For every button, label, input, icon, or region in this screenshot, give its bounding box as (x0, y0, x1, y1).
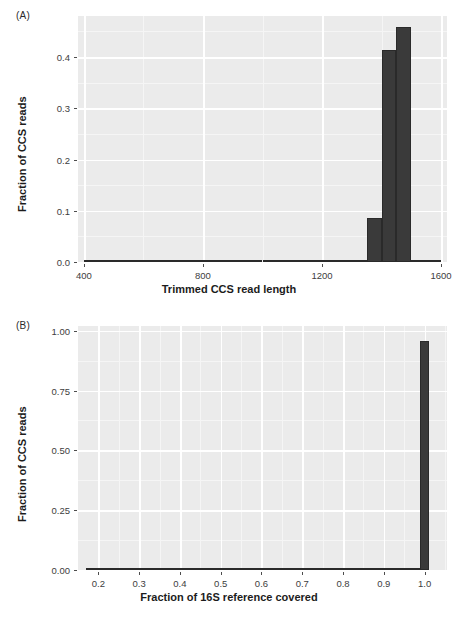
y-tick-mark (74, 331, 77, 332)
histogram-bar (200, 568, 208, 570)
y-tick-mark (74, 108, 77, 109)
gridline-vertical-minor (160, 326, 161, 570)
histogram-bar (396, 568, 404, 570)
histogram-bar (274, 568, 282, 570)
histogram-bar (135, 568, 143, 570)
x-tick-label: 1600 (430, 270, 451, 281)
y-tick-label: 0.00 (30, 565, 70, 576)
panel-a-y-axis-title: Fraction of CCS reads (16, 96, 28, 212)
gridline-vertical-minor (445, 326, 446, 570)
histogram-bar (352, 260, 367, 262)
histogram-bar (426, 260, 441, 262)
gridline-vertical-minor (282, 326, 283, 570)
histogram-bar (127, 568, 135, 570)
x-tick-mark (384, 572, 385, 575)
gridline-vertical-minor (241, 326, 242, 570)
panel-a-tag: (A) (16, 10, 30, 21)
y-tick-mark (74, 211, 77, 212)
histogram-bar (233, 568, 241, 570)
histogram-bar (176, 568, 184, 570)
x-tick-label: 0.2 (92, 578, 105, 589)
histogram-bar (143, 260, 158, 262)
histogram-bar (102, 568, 110, 570)
histogram-bar (412, 568, 420, 570)
histogram-bar (347, 568, 355, 570)
y-tick-label: 0.25 (30, 505, 70, 516)
histogram-bar (404, 568, 412, 570)
histogram-bar (411, 260, 426, 262)
histogram-bar (217, 568, 225, 570)
histogram-bar (248, 260, 263, 262)
histogram-bar (307, 260, 322, 262)
histogram-bar (396, 27, 411, 262)
histogram-bar (192, 568, 200, 570)
panel-b-x-axis-title: Fraction of 16S reference covered (0, 591, 458, 603)
histogram-bar (382, 50, 397, 262)
panel-b-tag: (B) (16, 320, 30, 331)
histogram-bar (355, 568, 363, 570)
histogram-bar (218, 260, 233, 262)
histogram-bar (188, 260, 203, 262)
histogram-bar (257, 568, 265, 570)
histogram-bar (225, 568, 233, 570)
x-tick-label: 0.9 (377, 578, 390, 589)
gridline-vertical-major (139, 326, 141, 570)
x-tick-label: 400 (76, 270, 92, 281)
histogram-bar (233, 260, 248, 262)
histogram-bar (84, 260, 99, 262)
histogram-bar (331, 568, 339, 570)
histogram-bar (99, 260, 114, 262)
histogram-bar (151, 568, 159, 570)
y-tick-label: 0.0 (30, 257, 70, 268)
x-tick-mark (139, 572, 140, 575)
x-tick-mark (221, 572, 222, 575)
x-tick-mark (180, 572, 181, 575)
x-tick-label: 800 (195, 270, 211, 281)
y-tick-mark (74, 262, 77, 263)
histogram-bar (158, 260, 173, 262)
x-tick-label: 0.8 (336, 578, 349, 589)
x-tick-mark (84, 264, 85, 267)
panel-b-plot-area (78, 326, 447, 570)
figure-two-panel-histograms: (A) 0.00.10.20.30.4 40080012001600 Trimm… (0, 0, 458, 617)
y-tick-mark (74, 570, 77, 571)
histogram-bar (241, 568, 249, 570)
gridline-vertical-major (180, 326, 182, 570)
x-tick-mark (425, 572, 426, 575)
histogram-bar (277, 260, 292, 262)
gridline-vertical-major (261, 326, 263, 570)
y-tick-label: 0.2 (30, 154, 70, 165)
y-tick-label: 0.4 (30, 52, 70, 63)
x-tick-label: 0.6 (255, 578, 268, 589)
panel-b: (B) 0.000.250.500.751.00 0.20.30.40.50.6… (0, 310, 458, 617)
histogram-bar (323, 568, 331, 570)
histogram-bar (290, 568, 298, 570)
y-tick-label: 0.1 (30, 205, 70, 216)
gridline-vertical-minor (404, 326, 405, 570)
gridline-vertical-major (322, 16, 324, 262)
gridline-vertical-minor (363, 326, 364, 570)
histogram-bar (282, 568, 290, 570)
y-tick-label: 1.00 (30, 325, 70, 336)
histogram-bar (388, 568, 396, 570)
y-tick-mark (74, 57, 77, 58)
gridline-vertical-major (203, 16, 205, 262)
x-tick-label: 1.0 (418, 578, 431, 589)
histogram-bar (363, 568, 371, 570)
y-tick-label: 0.75 (30, 385, 70, 396)
x-tick-mark (261, 572, 262, 575)
gridline-vertical-major (441, 16, 443, 262)
x-tick-label: 0.4 (173, 578, 186, 589)
gridline-vertical-major (343, 326, 345, 570)
x-tick-label: 0.5 (214, 578, 227, 589)
histogram-bar (94, 568, 102, 570)
y-tick-label: 0.3 (30, 103, 70, 114)
x-tick-mark (203, 264, 204, 267)
histogram-bar (292, 260, 307, 262)
histogram-bar (86, 568, 94, 570)
gridline-vertical-major (302, 326, 304, 570)
panel-b-y-axis-title: Fraction of CCS reads (16, 406, 28, 522)
histogram-bar (298, 568, 306, 570)
histogram-bar (168, 568, 176, 570)
x-tick-mark (441, 264, 442, 267)
